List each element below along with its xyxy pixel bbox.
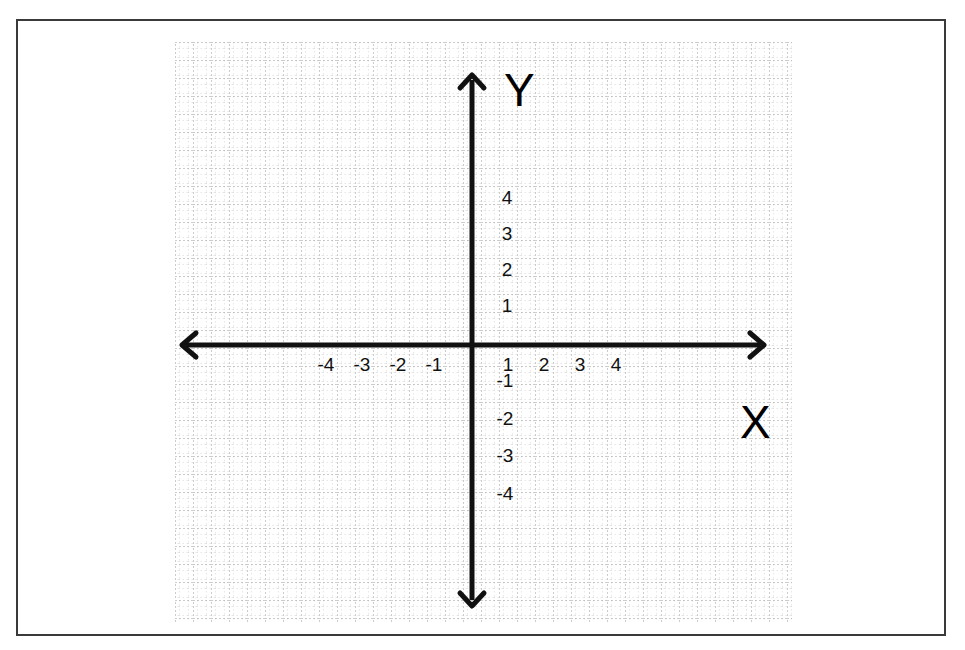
y-axis-label: Y <box>504 64 535 116</box>
y-tick: 1 <box>502 295 513 316</box>
x-tick: 4 <box>611 354 622 375</box>
y-tick: -3 <box>497 445 514 466</box>
y-tick: 2 <box>502 259 513 280</box>
x-tick: 3 <box>575 354 586 375</box>
x-tick: -1 <box>426 354 443 375</box>
y-tick: -4 <box>497 483 514 504</box>
x-tick: -3 <box>354 354 371 375</box>
x-tick: -2 <box>390 354 407 375</box>
grid-paper <box>175 42 792 622</box>
x-axis-label: X <box>740 396 771 448</box>
y-tick: -2 <box>497 408 514 429</box>
x-tick: 2 <box>539 354 550 375</box>
y-tick: -1 <box>497 370 514 391</box>
x-tick: -4 <box>318 354 335 375</box>
y-tick: 3 <box>502 223 513 244</box>
y-tick: 4 <box>502 187 513 208</box>
coordinate-plane: Y X -4 -3 -2 -1 1 2 3 4 4 3 2 1 -1 -2 -3… <box>0 0 965 650</box>
